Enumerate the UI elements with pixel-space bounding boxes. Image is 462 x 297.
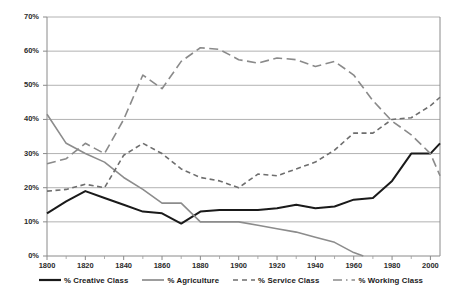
x-axis-label: 1860	[145, 261, 179, 270]
x-axis-label: 1820	[68, 261, 102, 270]
series-line-service-class	[47, 97, 440, 191]
series-line-agriculture	[47, 114, 363, 256]
legend-item-creative-class: % Creative Class	[39, 276, 128, 285]
legend-swatch-agriculture	[142, 276, 164, 284]
y-axis-label: 60%	[13, 46, 39, 55]
legend-label-service-class: % Service Class	[258, 276, 319, 285]
x-axis-label: 1800	[30, 261, 64, 270]
y-axis-label: 20%	[13, 183, 39, 192]
line-chart-plot	[0, 0, 462, 297]
legend-item-agriculture: % Agriculture	[142, 276, 219, 285]
y-axis-label: 70%	[13, 12, 39, 21]
legend-label-working-class: % Working Class	[358, 276, 423, 285]
y-axis-label: 0%	[13, 251, 39, 260]
y-axis-label: 50%	[13, 80, 39, 89]
y-axis-label: 30%	[13, 149, 39, 158]
x-axis-label: 1940	[298, 261, 332, 270]
x-axis-label: 1840	[107, 261, 141, 270]
y-axis-label: 40%	[13, 114, 39, 123]
legend-swatch-working-class	[333, 276, 355, 284]
legend-swatch-service-class	[233, 276, 255, 284]
x-axis-label: 1960	[337, 261, 371, 270]
x-axis-label: 1880	[183, 261, 217, 270]
legend-swatch-creative-class	[39, 276, 61, 284]
x-axis-label: 1900	[222, 261, 256, 270]
legend-label-agriculture: % Agriculture	[167, 276, 219, 285]
series-line-working-class	[47, 48, 440, 176]
x-axis-label: 1920	[260, 261, 294, 270]
x-axis-label: 1980	[375, 261, 409, 270]
legend-item-service-class: % Service Class	[233, 276, 319, 285]
chart-legend: % Creative Class % Agriculture % Service…	[0, 272, 462, 288]
x-axis-label: 2000	[413, 261, 447, 270]
legend-item-working-class: % Working Class	[333, 276, 423, 285]
chart-container: % Creative Class % Agriculture % Service…	[0, 0, 462, 297]
y-axis-label: 10%	[13, 217, 39, 226]
legend-label-creative-class: % Creative Class	[64, 276, 128, 285]
